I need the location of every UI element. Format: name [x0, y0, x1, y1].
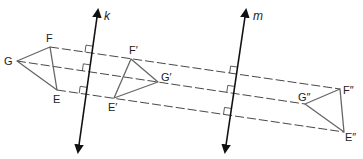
triangle-original [17, 47, 57, 90]
vertex-label-second-image-E: E″ [345, 131, 356, 143]
vertex-label-first-image-G: G′ [161, 71, 172, 83]
reflection-line-k [78, 10, 98, 152]
vertex-label-original-E: E [53, 93, 60, 105]
vertex-label-second-image-F: F″ [343, 84, 354, 96]
vertex-label-second-image-G: G″ [298, 91, 311, 103]
line-label-m: m [253, 9, 263, 23]
perpendicular-dashed-lines [17, 47, 344, 132]
vertex-label-first-image-E: E′ [108, 101, 117, 113]
reflection-line-m [225, 10, 246, 152]
line-label-k: k [104, 9, 111, 23]
vertex-label-first-image-F: F′ [129, 44, 138, 56]
right-angle-markers [79, 45, 237, 114]
reflection-diagram: GFEG′F′E′G″F″E″km [0, 0, 363, 159]
triangles [17, 47, 344, 132]
triangle-second-image [305, 89, 344, 132]
dashed-line-F-path [50, 47, 340, 89]
vertex-labels: GFEG′F′E′G″F″E″km [4, 9, 356, 143]
vertex-label-original-F: F [46, 32, 53, 44]
vertex-label-original-G: G [4, 55, 13, 67]
